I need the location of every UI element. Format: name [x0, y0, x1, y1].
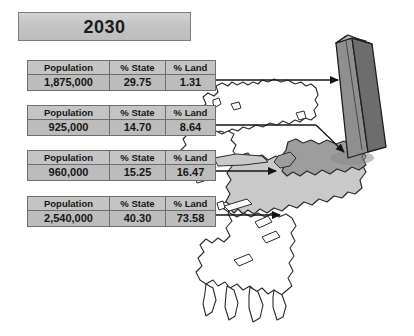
column-header-pct-land: % Land	[166, 106, 216, 120]
cell-pct-state: 15.25	[110, 165, 166, 181]
table-value-row: 960,000 15.25 16.47	[28, 165, 216, 181]
column-header-pct-land: % Land	[166, 61, 216, 75]
cell-pct-state: 40.30	[110, 211, 166, 227]
table-value-row: 925,000 14.70 8.64	[28, 120, 216, 136]
column-header-pct-land: % Land	[166, 151, 216, 165]
page-title: 2030	[83, 18, 125, 36]
table-header-row: Population % State % Land	[28, 151, 216, 165]
column-header-pct-state: % State	[110, 61, 166, 75]
table-row: Population % State % Land 1,875,000 29.7…	[27, 60, 216, 91]
column-header-pct-state: % State	[110, 151, 166, 165]
table-value-row: 2,540,000 40.30 73.58	[28, 211, 216, 227]
table-row: Population % State % Land 925,000 14.70 …	[27, 105, 216, 136]
column-header-population: Population	[28, 151, 110, 165]
cell-pct-state: 14.70	[110, 120, 166, 136]
map-peninsula-4	[273, 290, 286, 320]
table-value-row: 1,875,000 29.75 1.31	[28, 75, 216, 91]
cell-population: 2,540,000	[28, 211, 110, 227]
cell-pct-state: 29.75	[110, 75, 166, 91]
cell-pct-land: 1.31	[166, 75, 216, 91]
column-header-pct-state: % State	[110, 197, 166, 211]
map-islet-c	[217, 201, 225, 210]
map-peninsula-2	[225, 286, 238, 320]
table-header-row: Population % State % Land	[28, 61, 216, 75]
map-peninsula-3	[249, 287, 263, 322]
cell-population: 925,000	[28, 120, 110, 136]
column-header-pct-land: % Land	[166, 197, 216, 211]
cell-pct-land: 16.47	[166, 165, 216, 181]
infographic-stage: 2030 Population % State % Land 1,875,000…	[0, 0, 414, 336]
column-header-population: Population	[28, 61, 110, 75]
column-header-population: Population	[28, 197, 110, 211]
column-header-population: Population	[28, 106, 110, 120]
table-header-row: Population % State % Land	[28, 197, 216, 211]
cell-pct-land: 8.64	[166, 120, 216, 136]
column-header-pct-state: % State	[110, 106, 166, 120]
map-peninsula-1	[203, 284, 216, 316]
table-header-row: Population % State % Land	[28, 106, 216, 120]
cell-pct-land: 73.58	[166, 211, 216, 227]
cell-population: 960,000	[28, 165, 110, 181]
table-row: Population % State % Land 960,000 15.25 …	[27, 150, 216, 181]
table-row: Population % State % Land 2,540,000 40.3…	[27, 196, 216, 227]
year-title-box: 2030	[18, 12, 191, 41]
cell-population: 1,875,000	[28, 75, 110, 91]
